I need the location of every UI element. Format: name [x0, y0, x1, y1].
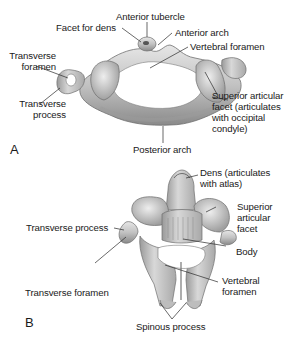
label-superior-articular-facet-b-line2: articular [237, 212, 270, 223]
label-vertebral-foramen-b-line1: Vertebral [222, 275, 260, 286]
label-transverse-foramen-a-line1: Transverse [9, 50, 56, 61]
label-superior-articular-facet-a-line1: Superior articular [212, 90, 283, 101]
label-anterior-arch: Anterior arch [175, 27, 229, 38]
label-superior-articular-facet-b-line3: facet [237, 223, 257, 234]
label-superior-articular-facet-a-line4: condyle) [212, 123, 247, 134]
label-transverse-foramen-a-line2: foramen [9, 61, 56, 72]
label-dens-line2: with atlas) [200, 178, 242, 189]
label-vertebral-foramen-a: Vertebral foramen [190, 41, 265, 52]
label-transverse-process-b: Transverse process [26, 222, 108, 233]
label-transverse-process-a-line2: process [16, 109, 66, 120]
anatomy-figure: Anterior tubercle Facet for dens Anterio… [0, 0, 293, 337]
label-superior-articular-facet-b-line1: Superior [237, 201, 272, 212]
label-superior-articular-facet-a-line2: facet (articulates [212, 101, 281, 112]
panel-label-b: B [25, 316, 34, 330]
label-body: Body [236, 246, 257, 257]
label-anterior-tubercle: Anterior tubercle [116, 11, 185, 22]
label-facet-for-dens: Facet for dens [56, 22, 116, 33]
label-dens-line1: Dens (articulates [200, 167, 270, 178]
label-transverse-process-a-line1: Transverse [16, 98, 66, 109]
label-spinous-process: Spinous process [136, 321, 205, 332]
label-posterior-arch: Posterior arch [133, 144, 191, 155]
axis-vertebra-drawing [119, 170, 236, 309]
label-transverse-foramen-b: Transverse foramen [25, 287, 109, 298]
panel-label-a: A [10, 143, 19, 157]
label-superior-articular-facet-a-line3: with occipital [212, 112, 265, 123]
label-vertebral-foramen-b-line2: foramen [222, 286, 257, 297]
